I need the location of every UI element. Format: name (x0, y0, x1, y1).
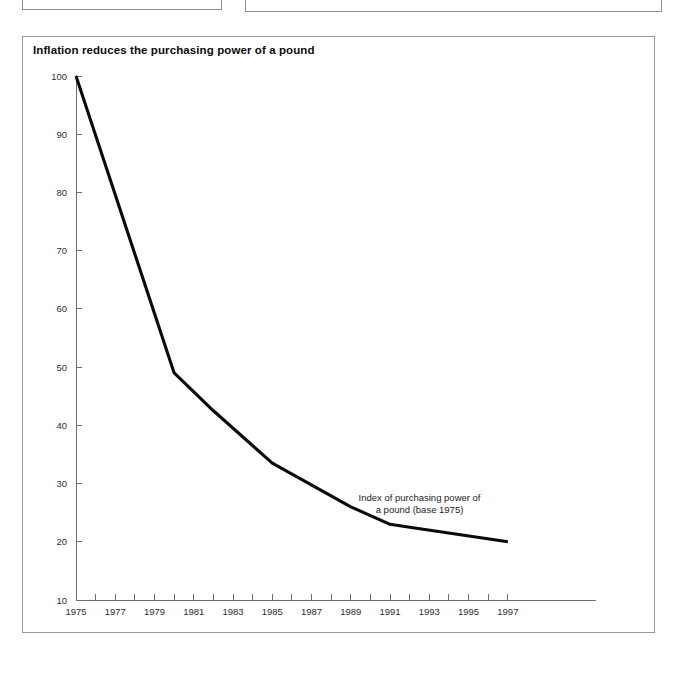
upper-right-panel (245, 0, 662, 12)
y-tick-label: 60 (56, 303, 67, 314)
x-tick-label: 1979 (144, 606, 165, 617)
series-annotation-line2: a pound (base 1975) (376, 504, 464, 515)
line-chart-plot: 1020304050607080901001975197719791981198… (23, 37, 654, 632)
x-tick-label: 1991 (380, 606, 401, 617)
y-tick-label: 90 (56, 129, 67, 140)
x-tick-label: 1987 (301, 606, 322, 617)
series-annotation-line1: Index of purchasing power of (359, 492, 481, 503)
x-tick-label: 1985 (262, 606, 283, 617)
x-tick-label: 1995 (458, 606, 479, 617)
x-tick-label: 1981 (183, 606, 204, 617)
x-tick-label: 1975 (65, 606, 86, 617)
y-tick-label: 10 (56, 595, 67, 606)
x-tick-label: 1977 (105, 606, 126, 617)
x-tick-label: 1993 (419, 606, 440, 617)
y-tick-label: 40 (56, 420, 67, 431)
y-tick-label: 30 (56, 478, 67, 489)
x-tick-label: 1997 (497, 606, 518, 617)
y-tick-label: 80 (56, 187, 67, 198)
chart-figure-frame: Inflation reduces the purchasing power o… (22, 36, 655, 633)
data-series-line (76, 76, 508, 542)
y-tick-label: 100 (51, 71, 67, 82)
x-tick-label: 1983 (222, 606, 243, 617)
y-tick-label: 20 (56, 536, 67, 547)
y-tick-label: 70 (56, 245, 67, 256)
upper-left-panel (22, 0, 222, 10)
x-tick-label: 1989 (340, 606, 361, 617)
y-tick-label: 50 (56, 362, 67, 373)
